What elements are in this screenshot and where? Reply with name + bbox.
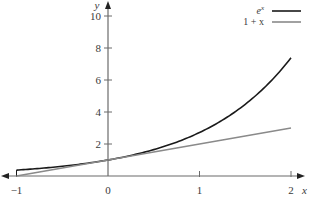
y-axis-up-arrow-icon <box>105 1 111 9</box>
x-tick-label: 2 <box>288 184 294 196</box>
x-axis-left-arrow-icon <box>1 173 9 179</box>
y-tick-label: 10 <box>90 10 102 22</box>
series-one-plus-x-line <box>17 128 292 176</box>
y-tick-label: 4 <box>96 106 102 118</box>
y-axis-label: y <box>94 0 100 11</box>
y-tick-label: 6 <box>96 74 102 86</box>
x-axis-right-arrow-icon <box>297 173 305 179</box>
x-tick-label: −1 <box>11 184 23 196</box>
axes: −1012246810xy <box>1 0 307 196</box>
x-tick-label: 0 <box>105 184 111 196</box>
series-exp-x-line <box>17 58 292 170</box>
x-axis-label: x <box>301 184 307 196</box>
legend-label-superscript: x <box>260 4 265 12</box>
legend: ex1 + x <box>243 4 301 27</box>
series-lines <box>17 58 292 176</box>
y-tick-label: 8 <box>96 42 102 54</box>
legend-label: 1 + x <box>243 16 264 27</box>
legend-label-text: 1 + x <box>243 16 264 27</box>
legend-label: ex <box>256 4 264 16</box>
chart: −1012246810xy ex1 + x <box>0 0 312 203</box>
x-tick-label: 1 <box>197 184 203 196</box>
y-tick-label: 2 <box>96 138 102 150</box>
